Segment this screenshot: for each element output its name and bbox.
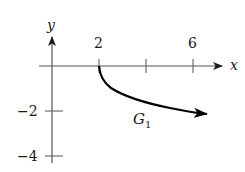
x-tick-label-2: 2	[94, 35, 103, 51]
x-tick-label-6: 6	[188, 35, 197, 51]
graph-figure: y x 2 6 −2 −4 G1	[0, 0, 245, 172]
y-tick-label-neg4: −4	[17, 148, 38, 164]
curve-label-main: G	[133, 110, 145, 128]
y-tick-label-neg2: −2	[17, 103, 38, 119]
curve-label-g1: G1	[133, 110, 151, 130]
graph-canvas: y x 2 6 −2 −4 G1	[0, 0, 245, 172]
y-axis-label: y	[46, 17, 56, 33]
x-axis-label: x	[230, 57, 238, 73]
curve-g1	[99, 66, 207, 114]
curve-label-sub: 1	[145, 119, 151, 130]
